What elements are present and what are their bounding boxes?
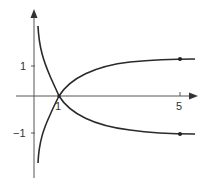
axes — [16, 16, 192, 178]
y-axis-arrow-icon — [31, 9, 38, 18]
x-label-1: 1 — [55, 100, 61, 112]
chart: 1 −1 1 5 — [0, 0, 210, 186]
lower-right-branch — [59, 96, 195, 134]
x-axis-arrow-icon — [189, 93, 198, 100]
upper-marker — [178, 57, 182, 61]
x-label-5: 5 — [176, 100, 182, 112]
lower-marker — [178, 132, 182, 136]
curves — [38, 26, 195, 163]
upper-right-branch — [59, 59, 195, 96]
y-label-1: 1 — [20, 60, 26, 72]
crossing-point — [57, 94, 60, 97]
y-label-neg1: −1 — [13, 127, 26, 139]
upper-left-branch — [38, 26, 59, 96]
